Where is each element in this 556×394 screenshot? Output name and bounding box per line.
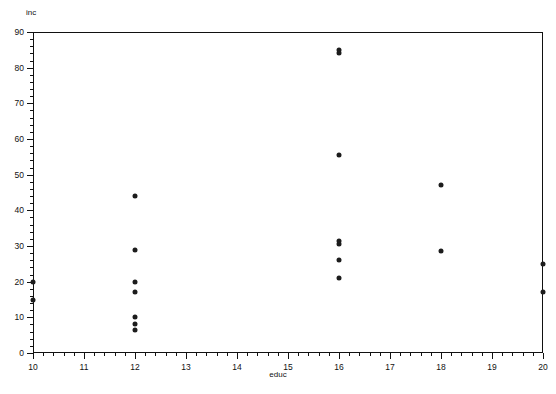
x-axis-tick-minor: [431, 353, 432, 356]
y-axis-tick-label: 20: [2, 277, 24, 287]
y-axis-tick-minor: [30, 53, 33, 54]
y-axis-tick-minor: [30, 75, 33, 76]
x-axis-tick-minor: [319, 353, 320, 356]
data-point: [439, 183, 444, 188]
y-axis-tick-label: 50: [2, 170, 24, 180]
y-axis-tick-minor: [30, 253, 33, 254]
data-point: [133, 290, 138, 295]
y-axis-tick-minor: [30, 146, 33, 147]
x-axis-tick-minor: [298, 353, 299, 356]
data-point: [133, 315, 138, 320]
y-axis-tick-minor: [30, 260, 33, 261]
x-axis-tick-minor: [155, 353, 156, 356]
x-axis-tick-major: [33, 353, 34, 359]
x-axis-tick-minor: [523, 353, 524, 356]
x-axis-tick-minor: [74, 353, 75, 356]
x-axis-tick-minor: [257, 353, 258, 356]
y-axis-tick-major: [27, 103, 33, 104]
x-axis-tick-minor: [125, 353, 126, 356]
y-axis-tick-minor: [30, 339, 33, 340]
data-point: [337, 242, 342, 247]
x-axis-tick-minor: [512, 353, 513, 356]
x-axis-tick-minor: [533, 353, 534, 356]
x-axis-tick-major: [237, 353, 238, 359]
x-axis-tick-minor: [227, 353, 228, 356]
data-point: [439, 249, 444, 254]
x-axis-tick-minor: [380, 353, 381, 356]
x-axis-tick-minor: [206, 353, 207, 356]
x-axis-tick-minor: [278, 353, 279, 356]
y-axis-tick-minor: [30, 346, 33, 347]
x-axis-tick-minor: [196, 353, 197, 356]
x-axis-tick-major: [390, 353, 391, 359]
y-axis-title: inc: [26, 8, 36, 17]
y-axis-tick-label: 80: [2, 63, 24, 73]
y-axis-tick-minor: [30, 132, 33, 133]
x-axis-tick-minor: [94, 353, 95, 356]
x-axis-tick-minor: [104, 353, 105, 356]
y-axis-tick-minor: [30, 110, 33, 111]
y-axis-tick-minor: [30, 46, 33, 47]
x-axis-tick-minor: [53, 353, 54, 356]
x-axis-tick-minor: [421, 353, 422, 356]
x-axis-tick-major: [441, 353, 442, 359]
y-axis-tick-label: 90: [2, 27, 24, 37]
y-axis-tick-major: [27, 68, 33, 69]
x-axis-tick-minor: [268, 353, 269, 356]
x-axis-tick-minor: [329, 353, 330, 356]
y-axis-tick-minor: [30, 61, 33, 62]
data-point: [541, 290, 546, 295]
x-axis-tick-minor: [115, 353, 116, 356]
y-axis-tick-minor: [30, 303, 33, 304]
y-axis-tick-minor: [30, 196, 33, 197]
data-point: [133, 327, 138, 332]
data-point: [133, 322, 138, 327]
x-axis-tick-major: [492, 353, 493, 359]
y-axis-tick-major: [27, 175, 33, 176]
data-point: [541, 261, 546, 266]
data-point: [337, 153, 342, 158]
x-axis-tick-minor: [482, 353, 483, 356]
y-axis-tick-minor: [30, 89, 33, 90]
y-axis-tick-minor: [30, 82, 33, 83]
x-axis-tick-minor: [502, 353, 503, 356]
y-axis-tick-minor: [30, 189, 33, 190]
x-axis-tick-minor: [247, 353, 248, 356]
x-axis-tick-major: [84, 353, 85, 359]
y-axis-tick-minor: [30, 168, 33, 169]
y-axis-tick-label: 40: [2, 205, 24, 215]
y-axis-tick-minor: [30, 39, 33, 40]
y-axis-tick-minor: [30, 153, 33, 154]
y-axis-tick-label: 0: [2, 348, 24, 358]
x-axis-tick-major: [135, 353, 136, 359]
y-axis-tick-minor: [30, 239, 33, 240]
y-axis-tick-minor: [30, 203, 33, 204]
x-axis-tick-minor: [370, 353, 371, 356]
y-axis-tick-minor: [30, 160, 33, 161]
y-axis-tick-major: [27, 210, 33, 211]
y-axis-tick-minor: [30, 275, 33, 276]
x-axis-tick-minor: [359, 353, 360, 356]
x-axis-tick-minor: [400, 353, 401, 356]
y-axis-tick-label: 30: [2, 241, 24, 251]
y-axis-tick-major: [27, 32, 33, 33]
data-point: [337, 258, 342, 263]
x-axis-tick-major: [543, 353, 544, 359]
x-axis-tick-minor: [410, 353, 411, 356]
y-axis-tick-minor: [30, 125, 33, 126]
x-axis-tick-minor: [43, 353, 44, 356]
scatter-plot-figure: inc 010203040506070809010111213141516171…: [0, 0, 556, 394]
y-axis-tick-minor: [30, 310, 33, 311]
y-axis-tick-minor: [30, 332, 33, 333]
y-axis-tick-minor: [30, 232, 33, 233]
y-axis-tick-label: 60: [2, 134, 24, 144]
y-axis-tick-major: [27, 139, 33, 140]
y-axis-tick-major: [27, 317, 33, 318]
data-point: [31, 297, 36, 302]
x-axis-tick-major: [339, 353, 340, 359]
y-axis-tick-minor: [30, 96, 33, 97]
x-axis-tick-major: [288, 353, 289, 359]
y-axis-tick-label: 70: [2, 98, 24, 108]
y-axis-tick-major: [27, 246, 33, 247]
y-axis-tick-minor: [30, 324, 33, 325]
